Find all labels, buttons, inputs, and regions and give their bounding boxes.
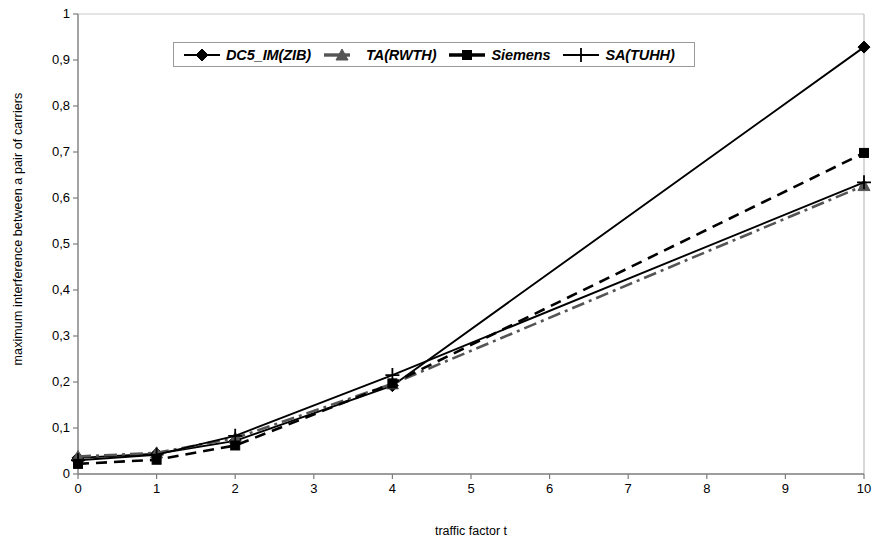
series-line: [78, 182, 864, 460]
series-dc5-im-zib: [72, 41, 870, 464]
series-line: [78, 153, 864, 464]
legend-label: DC5_IM(ZIB): [222, 47, 322, 63]
plus-marker: [857, 175, 871, 189]
diamond-marker: [182, 47, 222, 63]
square-marker: [463, 50, 472, 59]
plus-marker: [561, 47, 601, 63]
series-sa-tuhh: [71, 175, 871, 467]
legend-item[interactable]: DC5_IM(ZIB): [182, 43, 322, 66]
chart-legend: DC5_IM(ZIB)TA(RWTH)SiemensSA(TUHH): [173, 42, 695, 67]
legend-item[interactable]: Siemens: [447, 43, 561, 66]
series-line: [78, 186, 864, 457]
square-marker: [860, 148, 869, 157]
diamond-marker: [196, 49, 208, 61]
legend-label: Siemens: [487, 47, 561, 63]
series-line: [78, 47, 864, 458]
legend-label: SA(TUHH): [601, 47, 685, 63]
legend-item[interactable]: TA(RWTH): [322, 43, 447, 66]
diamond-marker: [858, 41, 870, 53]
triangle-marker: [322, 47, 362, 63]
plot-area: [0, 0, 893, 552]
plus-marker: [574, 48, 588, 62]
series-ta-rwth: [72, 180, 870, 462]
legend-item[interactable]: SA(TUHH): [561, 43, 685, 66]
series-siemens: [74, 148, 869, 468]
legend-label: TA(RWTH): [362, 47, 447, 63]
square-marker: [447, 47, 487, 63]
line-chart: maximum interference between a pair of c…: [0, 0, 893, 552]
